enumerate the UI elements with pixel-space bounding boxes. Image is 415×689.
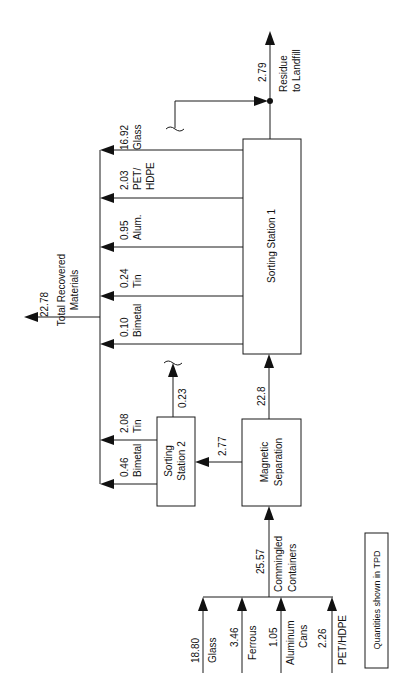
commingled-containers: 25.57 Commingled Containers xyxy=(203,506,333,597)
svg-text:Glass: Glass xyxy=(207,637,218,663)
arrow-icon xyxy=(100,242,114,252)
svg-text:0.95: 0.95 xyxy=(119,220,130,240)
arrow-icon xyxy=(265,31,275,45)
arrow-icon xyxy=(100,479,114,489)
svg-text:Cans: Cans xyxy=(298,625,309,648)
svg-text:1.05: 1.05 xyxy=(268,627,279,647)
magnetic-separation-box xyxy=(242,419,301,506)
svg-text:Commingled: Commingled xyxy=(273,536,284,592)
svg-text:3.46: 3.46 xyxy=(229,627,240,647)
svg-text:0.46: 0.46 xyxy=(119,457,130,477)
sorting-station-2-label-1: Sorting xyxy=(163,445,174,477)
svg-text:HDPE: HDPE xyxy=(145,162,156,190)
ss2-output-bimetal: 0.46 Bimetal xyxy=(100,444,157,489)
arrow-icon xyxy=(264,506,274,520)
units-note: Quantities shown in TPD xyxy=(372,550,382,649)
magnetic-label-2: Separation xyxy=(273,438,284,486)
arrow-icon xyxy=(100,291,114,301)
total-recovered: 22.78 Total Recovered Materials xyxy=(24,254,100,326)
svg-text:0.10: 0.10 xyxy=(119,317,130,337)
svg-text:Residue: Residue xyxy=(278,55,289,92)
sorting-station-1-label: Sorting Station 1 xyxy=(266,209,277,283)
ss1-output-bimetal: 0.10 Bimetal xyxy=(100,304,243,349)
svg-text:0.24: 0.24 xyxy=(119,268,130,288)
arrow-icon xyxy=(100,193,114,203)
svg-text:22.78: 22.78 xyxy=(39,292,50,317)
svg-text:2.08: 2.08 xyxy=(119,413,130,433)
arrow-icon xyxy=(195,457,209,467)
svg-text:Bimetal: Bimetal xyxy=(132,444,143,477)
svg-text:Total Recovered: Total Recovered xyxy=(56,254,67,326)
flow-diagram: Sorting Station 1 Sorting Station 2 Magn… xyxy=(0,0,415,689)
flow-mag-to-ss2: 2.77 xyxy=(195,436,242,467)
ss1-output-tin: 0.24 Tin xyxy=(100,268,243,301)
arrow-icon xyxy=(198,597,208,611)
arrow-icon xyxy=(24,312,38,322)
svg-text:2.77: 2.77 xyxy=(217,436,228,456)
svg-text:25.57: 25.57 xyxy=(255,549,266,574)
svg-text:Glass: Glass xyxy=(132,124,143,150)
flow-mag-to-ss1: 22.8 xyxy=(256,354,274,419)
input-glass: 18.80 Glass xyxy=(190,597,218,673)
svg-text:16.92: 16.92 xyxy=(119,125,130,150)
input-pet-hdpe: 2.26 PET/HDPE xyxy=(317,597,348,673)
arrow-icon xyxy=(100,339,114,349)
svg-text:Ferrous: Ferrous xyxy=(247,626,258,660)
arrow-icon xyxy=(327,597,337,611)
svg-text:22.8: 22.8 xyxy=(256,386,267,406)
svg-text:Containers: Containers xyxy=(287,544,298,592)
arrow-icon xyxy=(237,597,247,611)
ss1-output-glass: 16.92 Glass xyxy=(100,124,243,155)
flow-ss2-residue: 0.23 xyxy=(164,361,188,417)
arrow-icon xyxy=(100,435,114,445)
sorting-station-2-label-2: Station 2 xyxy=(176,441,187,481)
svg-text:PET/HDPE: PET/HDPE xyxy=(337,615,348,665)
arrow-icon xyxy=(276,597,286,611)
ss1-output-alum: 0.95 Alum. xyxy=(100,214,243,252)
svg-text:PET/: PET/ xyxy=(132,168,143,190)
svg-text:to Landfill: to Landfill xyxy=(291,49,302,92)
ss1-output-pet-hdpe: 2.03 PET/ HDPE xyxy=(100,162,243,203)
arrow-icon xyxy=(100,145,114,155)
input-ferrous: 3.46 Ferrous xyxy=(229,597,258,673)
svg-text:18.80: 18.80 xyxy=(190,638,201,663)
magnetic-label-1: Magnetic xyxy=(259,442,270,483)
svg-text:2.79: 2.79 xyxy=(257,62,268,82)
svg-text:Materials: Materials xyxy=(69,270,80,311)
ss2-output-tin: 2.08 Tin xyxy=(100,413,157,445)
svg-text:Tin: Tin xyxy=(132,274,143,288)
svg-text:2.03: 2.03 xyxy=(119,170,130,190)
svg-text:Bimetal: Bimetal xyxy=(132,304,143,337)
arrow-icon xyxy=(264,354,274,368)
arrow-icon xyxy=(254,96,268,106)
svg-text:2.26: 2.26 xyxy=(317,628,328,648)
input-aluminum-cans: 1.05 Aluminum Cans xyxy=(268,597,309,673)
svg-text:0.23: 0.23 xyxy=(177,388,188,408)
svg-text:Aluminum: Aluminum xyxy=(285,621,296,665)
svg-text:Tin: Tin xyxy=(132,419,143,433)
residue-to-landfill: 2.79 Residue to Landfill xyxy=(166,31,302,139)
svg-text:Alum.: Alum. xyxy=(132,214,143,240)
